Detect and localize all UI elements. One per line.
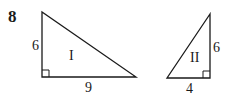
side-label-vertical: 6 [32, 38, 39, 53]
right-angle-marker [203, 71, 210, 78]
triangle-label: II [190, 50, 200, 65]
right-angle-marker [42, 70, 49, 77]
triangles-diagram: 6 9 I 6 4 II [0, 0, 231, 97]
side-label-vertical: 6 [213, 40, 220, 55]
triangle-I: 6 9 I [32, 12, 136, 95]
triangle-label: I [69, 48, 74, 63]
triangle-II: 6 4 II [167, 14, 220, 96]
side-label-horizontal: 9 [85, 80, 92, 95]
side-label-horizontal: 4 [186, 81, 193, 96]
